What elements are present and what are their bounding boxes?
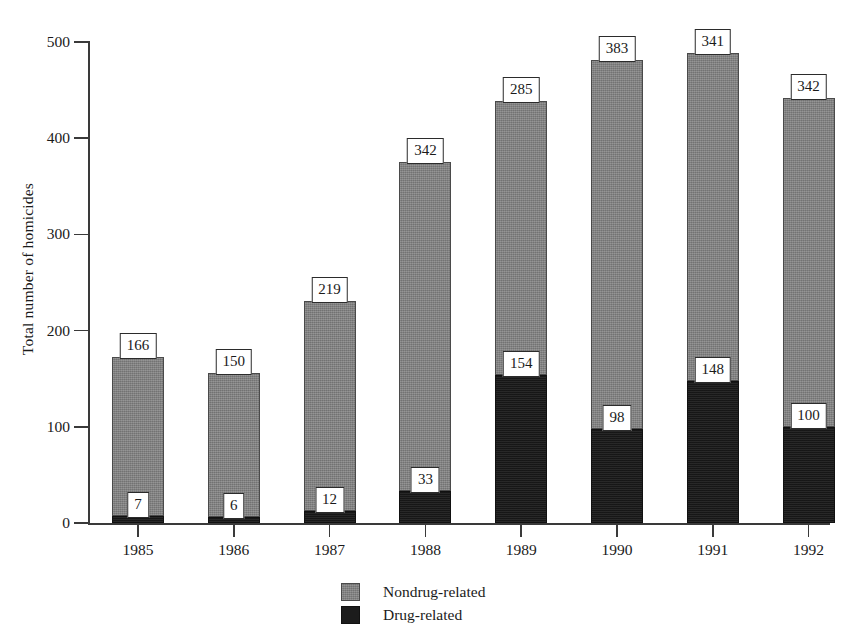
y-tick-200 bbox=[74, 330, 88, 332]
y-axis-line bbox=[88, 41, 90, 524]
x-tick-1985 bbox=[137, 525, 139, 537]
y-tick-label-300: 300 bbox=[26, 225, 70, 243]
value-label-drug-1986: 6 bbox=[223, 493, 245, 519]
bar-segment-nondrug-1988 bbox=[399, 162, 451, 491]
value-label-drug-1992: 100 bbox=[790, 403, 827, 429]
x-tick-label-1990: 1990 bbox=[572, 541, 662, 559]
x-tick-label-1988: 1988 bbox=[380, 541, 470, 559]
x-tick-1991 bbox=[712, 525, 714, 537]
x-tick-1992 bbox=[808, 525, 810, 537]
bar-segment-nondrug-1987 bbox=[304, 301, 356, 512]
bar-segment-drug-1989 bbox=[495, 375, 547, 523]
bar-segment-nondrug-1992 bbox=[783, 98, 835, 427]
x-tick-label-1985: 1985 bbox=[93, 541, 183, 559]
y-tick-300 bbox=[74, 234, 88, 236]
homicides-stacked-bar-chart: Total number of homicides 01002003004005… bbox=[0, 0, 855, 641]
x-axis-line bbox=[88, 523, 830, 525]
bar-segment-nondrug-1990 bbox=[591, 60, 643, 428]
bar-1992 bbox=[783, 98, 835, 523]
bar-segment-drug-1991 bbox=[687, 381, 739, 523]
y-tick-400 bbox=[74, 137, 88, 139]
value-label-drug-1991: 148 bbox=[695, 357, 732, 383]
value-label-drug-1987: 12 bbox=[315, 487, 344, 513]
x-tick-1990 bbox=[616, 525, 618, 537]
value-label-nondrug-1985: 166 bbox=[120, 333, 157, 359]
value-label-nondrug-1990: 383 bbox=[599, 36, 636, 62]
chart-legend: Nondrug-related Drug-related bbox=[341, 580, 485, 626]
legend-label-drug-related: Drug-related bbox=[383, 606, 462, 624]
bar-segment-drug-1988 bbox=[399, 491, 451, 523]
x-tick-1987 bbox=[329, 525, 331, 537]
value-label-drug-1990: 98 bbox=[603, 405, 632, 431]
x-tick-label-1987: 1987 bbox=[285, 541, 375, 559]
legend-swatch-drug-icon bbox=[341, 606, 360, 624]
x-tick-1989 bbox=[520, 525, 522, 537]
y-tick-500 bbox=[74, 41, 88, 43]
y-tick-label-400: 400 bbox=[26, 129, 70, 147]
x-tick-label-1992: 1992 bbox=[764, 541, 854, 559]
value-label-drug-1989: 154 bbox=[503, 351, 540, 377]
bar-1990 bbox=[591, 60, 643, 523]
value-label-drug-1985: 7 bbox=[127, 492, 149, 518]
legend-swatch-nondrug-icon bbox=[341, 583, 360, 601]
bar-1989 bbox=[495, 101, 547, 523]
value-label-nondrug-1992: 342 bbox=[790, 74, 827, 100]
value-label-drug-1988: 33 bbox=[411, 467, 440, 493]
legend-item-nondrug-related: Nondrug-related bbox=[341, 580, 485, 603]
bar-segment-drug-1992 bbox=[783, 427, 835, 523]
value-label-nondrug-1991: 341 bbox=[695, 29, 732, 55]
legend-item-drug-related: Drug-related bbox=[341, 603, 485, 626]
value-label-nondrug-1987: 219 bbox=[311, 277, 348, 303]
y-tick-label-500: 500 bbox=[26, 33, 70, 51]
legend-label-nondrug-related: Nondrug-related bbox=[383, 583, 485, 601]
x-tick-1988 bbox=[425, 525, 427, 537]
x-tick-label-1986: 1986 bbox=[189, 541, 279, 559]
value-label-nondrug-1989: 285 bbox=[503, 77, 540, 103]
y-tick-label-100: 100 bbox=[26, 418, 70, 436]
bar-segment-drug-1990 bbox=[591, 429, 643, 523]
value-label-nondrug-1988: 342 bbox=[407, 138, 444, 164]
x-tick-label-1991: 1991 bbox=[668, 541, 758, 559]
y-tick-label-0: 0 bbox=[26, 514, 70, 532]
bar-segment-nondrug-1991 bbox=[687, 53, 739, 381]
bar-1991 bbox=[687, 53, 739, 523]
y-tick-label-200: 200 bbox=[26, 322, 70, 340]
bar-segment-nondrug-1989 bbox=[495, 101, 547, 375]
y-tick-0 bbox=[74, 522, 88, 524]
value-label-nondrug-1986: 150 bbox=[216, 349, 253, 375]
x-tick-label-1989: 1989 bbox=[476, 541, 566, 559]
x-tick-1986 bbox=[233, 525, 235, 537]
y-tick-100 bbox=[74, 426, 88, 428]
